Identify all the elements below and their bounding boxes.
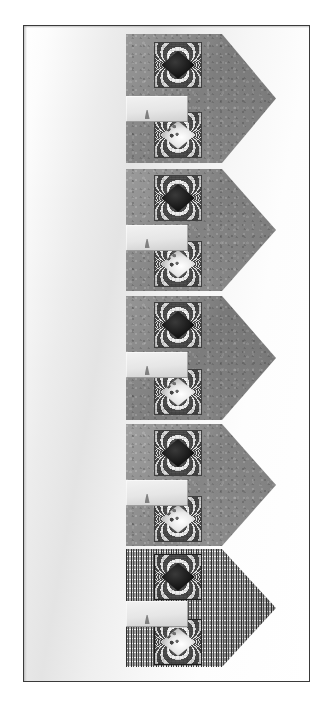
panel-3-inset-upper	[154, 302, 202, 348]
panel-2-notch	[126, 225, 188, 251]
arrow-panel-3	[126, 296, 276, 420]
panel-stack	[24, 26, 310, 682]
figure-root	[0, 0, 332, 705]
figure-plate-frame	[23, 25, 310, 682]
panel-3-notch	[126, 352, 188, 378]
panel-2-inset-upper	[154, 175, 202, 221]
panel-5-notch	[126, 601, 188, 627]
panel-4-inset-upper	[154, 430, 202, 476]
panel-1-inset-upper	[154, 42, 202, 88]
panel-5-inset-upper	[154, 554, 202, 600]
arrow-panel-2	[126, 169, 276, 291]
arrow-panel-4	[126, 424, 276, 546]
arrow-panel-1	[126, 34, 276, 163]
arrow-panel-5	[126, 549, 276, 667]
panel-4-notch	[126, 480, 188, 506]
panel-1-notch	[126, 96, 188, 122]
